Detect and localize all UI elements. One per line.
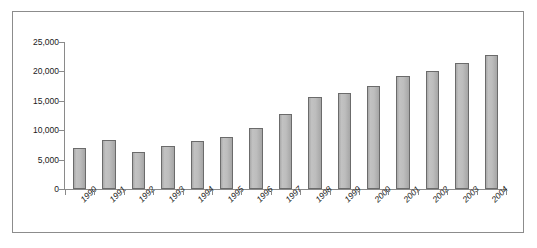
bar-1993 xyxy=(161,146,175,189)
x-axis-tick xyxy=(506,190,507,195)
x-axis-tick xyxy=(124,190,125,195)
x-axis-tick xyxy=(153,190,154,195)
bar-1991 xyxy=(102,140,116,189)
x-axis-tick xyxy=(241,190,242,195)
chart-frame: 05,00010,00015,00020,00025,000 199019911… xyxy=(12,11,524,233)
y-axis-tick-label: 10,000 xyxy=(15,126,59,135)
x-axis-tick xyxy=(300,190,301,195)
y-axis-tick xyxy=(59,101,65,102)
x-axis-tick xyxy=(388,190,389,195)
x-axis-tick xyxy=(359,190,360,195)
bar-2004 xyxy=(485,55,499,189)
x-axis-tick xyxy=(447,190,448,195)
y-axis-tick-label: 0 xyxy=(15,185,59,194)
bar-2000 xyxy=(367,86,381,189)
bar-1995 xyxy=(220,137,234,189)
plot-area xyxy=(65,42,506,189)
bar-1992 xyxy=(132,152,146,189)
bar-2001 xyxy=(396,76,410,189)
bar-2002 xyxy=(426,71,440,189)
x-axis-tick xyxy=(94,190,95,195)
x-axis-tick xyxy=(65,190,66,195)
y-axis-labels: 05,00010,00015,00020,00025,000 xyxy=(13,12,59,232)
bar-2003 xyxy=(455,63,469,189)
x-axis-tick xyxy=(477,190,478,195)
bar-1997 xyxy=(279,114,293,189)
bar-1994 xyxy=(191,141,205,189)
y-axis-tick-label: 5,000 xyxy=(15,156,59,165)
x-axis-tick xyxy=(330,190,331,195)
x-axis-tick xyxy=(271,190,272,195)
y-axis-tick xyxy=(59,42,65,43)
x-axis-tick xyxy=(183,190,184,195)
y-axis-tick xyxy=(59,160,65,161)
y-axis-tick-label: 15,000 xyxy=(15,97,59,106)
y-axis-tick-label: 20,000 xyxy=(15,67,59,76)
bar-1998 xyxy=(308,97,322,189)
bar-1990 xyxy=(73,148,87,189)
bar-1999 xyxy=(338,93,352,189)
plot-wrapper: 05,00010,00015,00020,00025,000 199019911… xyxy=(13,12,523,232)
y-axis-tick xyxy=(59,71,65,72)
x-axis-tick xyxy=(212,190,213,195)
y-axis-tick-label: 25,000 xyxy=(15,38,59,47)
x-axis-tick xyxy=(418,190,419,195)
bar-1996 xyxy=(249,128,263,189)
y-axis-tick xyxy=(59,130,65,131)
